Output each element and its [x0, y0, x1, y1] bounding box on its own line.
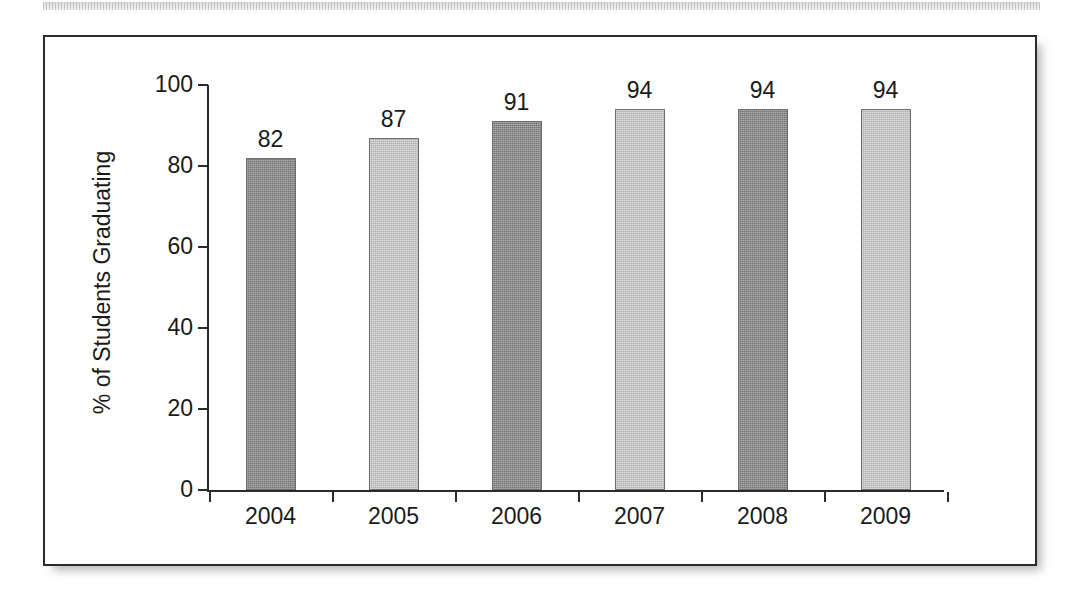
bar-2009[interactable] [861, 109, 911, 490]
bar-2007[interactable] [615, 109, 665, 490]
y-axis-tick-label: 0 [133, 478, 193, 501]
scan-artifact-strip [43, 2, 1040, 10]
x-axis-line [207, 490, 944, 492]
x-axis-label-2006: 2006 [455, 503, 578, 529]
x-axis-tick [332, 492, 334, 502]
y-axis-tick [198, 327, 208, 329]
x-axis-tick [209, 492, 211, 502]
bar-value-label-2006: 91 [455, 91, 578, 114]
y-axis-tick-label: 100 [133, 73, 193, 96]
bar-2008[interactable] [738, 109, 788, 490]
y-axis-tick [198, 84, 208, 86]
bar-value-label-2007: 94 [578, 79, 701, 102]
x-axis-label-2004: 2004 [209, 503, 332, 529]
y-axis-tick-label: 60 [133, 235, 193, 258]
bar-value-label-2009: 94 [824, 79, 947, 102]
y-axis-tick [198, 246, 208, 248]
y-axis-tick-label: 40 [133, 316, 193, 339]
x-axis-label-2005: 2005 [332, 503, 455, 529]
y-axis-tick-label: 80 [133, 154, 193, 177]
chart-figure-frame: % of Students Graduating 020406080100 82… [43, 35, 1037, 566]
x-axis-label-2007: 2007 [578, 503, 701, 529]
x-axis-tick [824, 492, 826, 502]
x-axis-tick [947, 492, 949, 502]
y-axis-tick [198, 489, 208, 491]
y-axis-title: % of Students Graduating [89, 123, 116, 443]
bar-value-label-2005: 87 [332, 108, 455, 131]
bar-2005[interactable] [369, 138, 419, 490]
x-axis-tick [578, 492, 580, 502]
bar-2004[interactable] [246, 158, 296, 490]
bar-value-label-2004: 82 [209, 128, 332, 151]
y-axis-tick-label: 20 [133, 397, 193, 420]
plot-area: % of Students Graduating 020406080100 82… [45, 37, 1035, 564]
x-axis-label-2009: 2009 [824, 503, 947, 529]
x-axis-tick [455, 492, 457, 502]
bar-value-label-2008: 94 [701, 79, 824, 102]
bar-2006[interactable] [492, 121, 542, 490]
y-axis-tick [198, 408, 208, 410]
x-axis-label-2008: 2008 [701, 503, 824, 529]
x-axis-tick [701, 492, 703, 502]
y-axis-tick [198, 165, 208, 167]
